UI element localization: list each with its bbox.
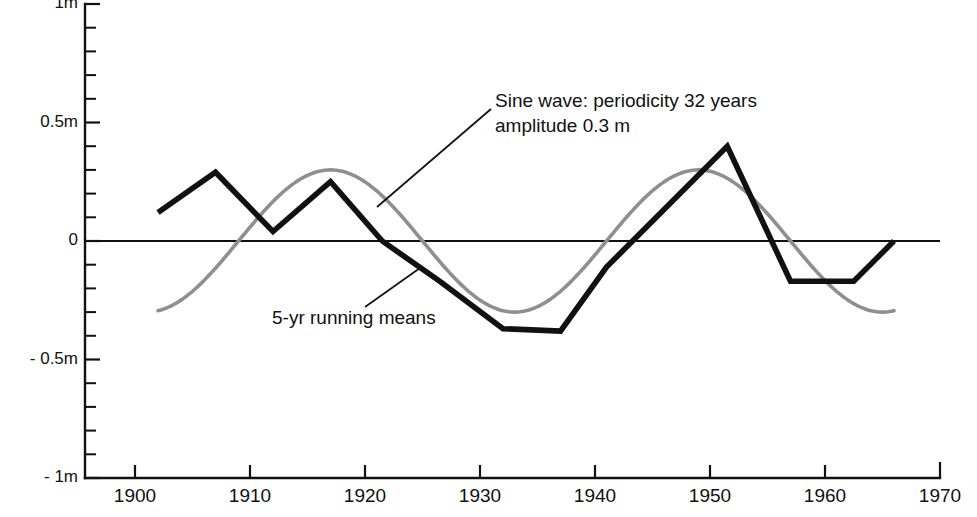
x-axis-tick-labels: 19001910192019301940195019601970 — [114, 485, 961, 506]
y-tick-label: 0 — [69, 230, 78, 249]
sine-wave-annotation: Sine wave: periodicity 32 yearsamplitude… — [377, 90, 757, 207]
x-tick-label: 1900 — [114, 485, 156, 506]
y-tick-label: - 0.5m — [30, 349, 78, 368]
annotations: Sine wave: periodicity 32 yearsamplitude… — [272, 90, 757, 328]
annotation-text-line1: 5-yr running means — [272, 307, 436, 328]
y-tick-label: 1m — [54, 0, 78, 12]
running-means-annotation: 5-yr running means — [272, 268, 436, 328]
sea-level-trend-chart: 1m0.5m0- 0.5m- 1m 1900191019201930194019… — [0, 0, 977, 517]
x-tick-label: 1910 — [229, 485, 271, 506]
x-tick-label: 1960 — [804, 485, 846, 506]
x-tick-label: 1970 — [919, 485, 961, 506]
x-tick-label: 1950 — [689, 485, 731, 506]
annotation-text-line1: Sine wave: periodicity 32 years — [495, 90, 757, 111]
x-axis-ticks — [135, 462, 940, 478]
annotation-leader-line — [365, 268, 420, 307]
y-tick-label: - 1m — [44, 467, 78, 486]
figure-canvas: 1m0.5m0- 0.5m- 1m 1900191019201930194019… — [0, 0, 977, 517]
y-tick-label: 0.5m — [40, 112, 78, 131]
annotation-leader-line — [377, 109, 491, 207]
x-tick-label: 1930 — [459, 485, 501, 506]
x-tick-label: 1940 — [574, 485, 616, 506]
y-axis-tick-labels: 1m0.5m0- 0.5m- 1m — [30, 0, 78, 486]
annotation-text-line2: amplitude 0.3 m — [495, 115, 630, 136]
series-5yr-running-means — [158, 146, 894, 331]
y-axis: 1m0.5m0- 0.5m- 1m — [30, 0, 100, 486]
x-tick-label: 1920 — [344, 485, 386, 506]
x-axis: 19001910192019301940195019601970 — [85, 462, 961, 506]
